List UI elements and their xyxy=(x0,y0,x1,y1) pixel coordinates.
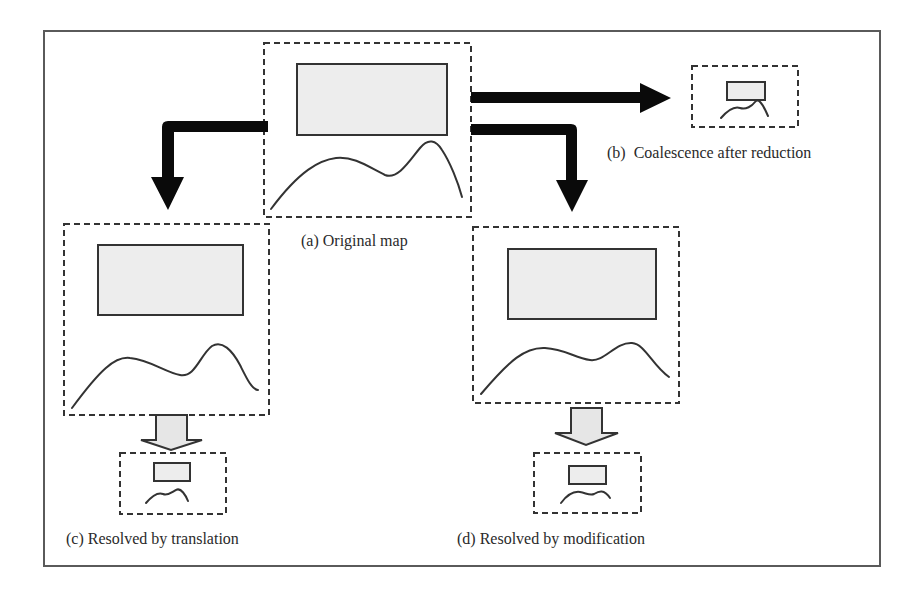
building-rectangle xyxy=(727,82,765,100)
road-curve xyxy=(721,101,768,118)
arrow-a-to-d-icon xyxy=(471,124,588,212)
label-original-map: (a) Original map xyxy=(301,232,408,250)
panel-d xyxy=(534,453,641,513)
road-curve xyxy=(271,141,462,209)
building-rectangle xyxy=(154,463,190,481)
label-coalescence-after-reduction: (b) Coalescence after reduction xyxy=(607,144,811,162)
panel-d-before xyxy=(473,227,679,403)
arrow-a-to-c-icon xyxy=(151,121,268,210)
panel-c xyxy=(120,453,226,514)
building-rectangle xyxy=(297,64,447,135)
building-rectangle xyxy=(508,249,656,319)
arrow-c-reduce-icon xyxy=(141,415,202,450)
label-resolved-by-translation: (c) Resolved by translation xyxy=(66,530,239,548)
arrow-d-reduce-icon xyxy=(555,408,618,445)
panel-a xyxy=(264,43,471,217)
building-rectangle xyxy=(98,245,243,315)
label-resolved-by-modification: (d) Resolved by modification xyxy=(457,530,645,548)
panel-c-before xyxy=(64,224,269,415)
panel-b xyxy=(692,66,798,127)
road-curve xyxy=(561,491,610,503)
road-curve xyxy=(72,344,258,408)
arrow-a-to-b-icon xyxy=(471,83,671,113)
diagram-canvas xyxy=(0,0,923,591)
road-curve xyxy=(481,343,669,394)
building-rectangle xyxy=(569,466,606,484)
road-curve xyxy=(146,489,188,503)
